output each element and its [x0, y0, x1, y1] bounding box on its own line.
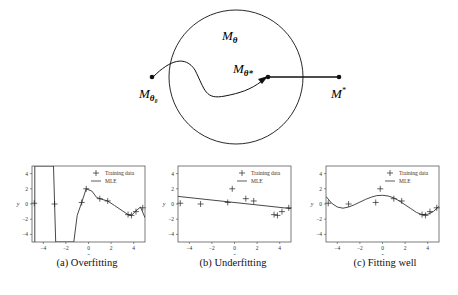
- y-tick-label: −4: [316, 231, 322, 237]
- mle-line: [35, 166, 145, 242]
- training-point: [83, 186, 89, 192]
- x-tick-label: 2: [404, 245, 407, 251]
- legend-mle: MLE: [251, 178, 263, 184]
- init-point: [150, 75, 155, 80]
- training-point: [391, 196, 397, 202]
- y-tick-label: 0: [319, 201, 322, 207]
- best-in-class-point: [266, 75, 271, 80]
- training-point: [373, 199, 379, 205]
- training-point: [243, 196, 249, 202]
- best-in-class-label: Mθ*: [232, 61, 254, 78]
- training-point: [225, 199, 231, 205]
- training-point: [399, 198, 405, 204]
- caption-fitting-well: (c) Fitting well: [310, 257, 458, 268]
- y-tick-label: 4: [319, 171, 322, 177]
- x-tick-label: −4: [40, 245, 46, 251]
- x-tick-label: −2: [357, 245, 363, 251]
- y-tick-label: 0: [25, 201, 28, 207]
- model-space-diagram: Mθ Mθ* Mθ₀ M*: [0, 0, 458, 150]
- x-tick-label: −2: [209, 245, 215, 251]
- x-tick-label: 0: [87, 245, 90, 251]
- x-axis-label: x: [232, 252, 236, 255]
- x-tick-label: −4: [186, 245, 192, 251]
- y-axis-label: y: [162, 201, 166, 207]
- truth-label: M*: [330, 86, 346, 101]
- x-tick-label: −2: [63, 245, 69, 251]
- mle-line: [178, 196, 291, 208]
- training-point: [79, 199, 85, 205]
- training-point: [377, 186, 383, 192]
- legend-training-data: Training data: [251, 170, 281, 176]
- legend-training-data: Training data: [105, 170, 135, 176]
- training-point: [427, 209, 433, 215]
- x-tick-label: 4: [132, 245, 135, 251]
- x-tick-label: 2: [110, 245, 113, 251]
- training-point: [125, 212, 131, 218]
- y-tick-label: 2: [171, 186, 174, 192]
- y-tick-label: −2: [316, 216, 322, 222]
- y-tick-label: 4: [171, 171, 174, 177]
- y-tick-label: 4: [25, 171, 28, 177]
- y-tick-label: −2: [168, 216, 174, 222]
- x-tick-label: 4: [278, 245, 281, 251]
- x-tick-label: −4: [334, 245, 340, 251]
- training-point: [279, 209, 285, 215]
- init-label: Mθ₀: [138, 86, 158, 103]
- y-tick-label: 2: [319, 186, 322, 192]
- x-tick-label: 0: [233, 245, 236, 251]
- training-point: [251, 198, 257, 204]
- underfitting-plot: −4−2024−4−2024xyTraining dataMLE: [154, 155, 299, 255]
- truth-point: [337, 75, 342, 80]
- x-axis-label: x: [380, 252, 384, 255]
- x-axis-label: x: [86, 252, 90, 255]
- overfitting-plot: −4−2024−4−2024xyTraining dataMLE: [8, 155, 153, 255]
- y-tick-label: −2: [22, 216, 28, 222]
- training-point: [274, 212, 280, 218]
- model-space-label: Mθ: [221, 28, 238, 45]
- y-tick-label: −4: [168, 231, 174, 237]
- legend-mle: MLE: [105, 178, 117, 184]
- caption-overfitting: (a) Overfitting: [12, 257, 162, 268]
- training-point: [198, 201, 204, 207]
- x-tick-label: 0: [381, 245, 384, 251]
- axes-frame: [32, 166, 145, 242]
- training-point: [271, 212, 277, 218]
- training-point: [97, 196, 103, 202]
- training-point: [105, 198, 111, 204]
- caption-underfitting: (b) Underfitting: [158, 257, 308, 268]
- training-point: [422, 212, 428, 218]
- y-axis-label: y: [310, 201, 314, 207]
- x-tick-label: 4: [426, 245, 429, 251]
- training-point: [229, 186, 235, 192]
- training-point: [419, 212, 425, 218]
- y-tick-label: −4: [22, 231, 28, 237]
- y-tick-label: 0: [171, 201, 174, 207]
- legend-training-data: Training data: [399, 170, 429, 176]
- x-tick-label: 2: [256, 245, 259, 251]
- y-tick-label: 2: [25, 186, 28, 192]
- axes-frame: [326, 166, 439, 242]
- legend-mle: MLE: [399, 178, 411, 184]
- training-point: [52, 201, 58, 207]
- y-axis-label: y: [16, 201, 20, 207]
- fitting-well-plot: −4−2024−4−2024xyTraining dataMLE: [302, 155, 452, 255]
- axes-frame: [178, 166, 291, 242]
